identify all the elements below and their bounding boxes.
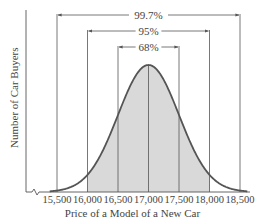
x-tick-labels: 15,50016,00016,50017,00017,50018,00018,5… [43, 194, 255, 205]
x-axis-label: Price of a Model of a New Car [0, 207, 265, 219]
x-tick-label: 17,500 [165, 194, 194, 205]
interval-brackets: 68%95%99.7% [58, 9, 239, 53]
y-axis-label: Number of Car Buyers [8, 48, 20, 148]
interval-label: 68% [138, 41, 158, 53]
x-tick-label: 16,500 [104, 194, 133, 205]
normal-distribution-chart: 15,50016,00016,50017,00017,50018,00018,5… [0, 0, 265, 224]
x-tick-label: 17,000 [134, 194, 163, 205]
x-tick-label: 18,000 [195, 194, 224, 205]
x-tick-label: 16,000 [73, 194, 102, 205]
interval-label: 95% [138, 25, 158, 37]
interval-label: 99.7% [134, 9, 162, 21]
x-tick-label: 15,500 [43, 194, 72, 205]
x-tick-label: 18,500 [226, 194, 255, 205]
